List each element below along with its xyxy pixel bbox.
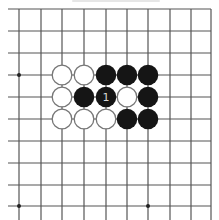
black-stone[interactable] — [117, 109, 138, 130]
star-point — [17, 73, 21, 77]
stones-layer: 1 — [52, 65, 158, 130]
white-stone[interactable] — [52, 109, 72, 129]
white-stone[interactable] — [117, 87, 137, 107]
black-stone[interactable] — [138, 65, 159, 86]
go-board[interactable]: 1 — [0, 0, 219, 220]
black-stone[interactable] — [74, 87, 95, 108]
white-stone[interactable] — [52, 65, 72, 85]
white-stone[interactable] — [74, 65, 94, 85]
white-stone[interactable] — [52, 87, 72, 107]
star-point — [17, 204, 21, 208]
black-stone[interactable] — [96, 65, 117, 86]
black-stone[interactable]: 1 — [96, 87, 117, 108]
black-stone[interactable] — [117, 65, 138, 86]
move-number-label: 1 — [103, 91, 110, 104]
black-stone[interactable] — [138, 87, 159, 108]
white-stone[interactable] — [74, 109, 94, 129]
white-stone[interactable] — [96, 109, 116, 129]
star-point — [146, 204, 150, 208]
black-stone[interactable] — [138, 109, 159, 130]
